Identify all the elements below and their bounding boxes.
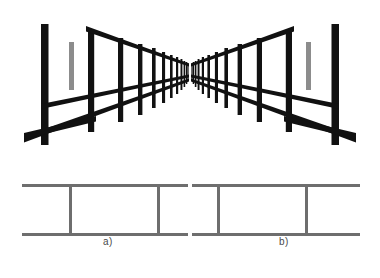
- perspective-corridor-scene: [0, 0, 380, 170]
- caption-a: a): [103, 236, 113, 247]
- test-bar-right: [306, 42, 311, 90]
- fence-post: [224, 48, 228, 108]
- fence-ground-plank: [284, 116, 356, 139]
- fence-mid-rail: [191, 75, 339, 110]
- fence-post: [207, 55, 210, 98]
- fence-top-rail: [191, 26, 294, 67]
- fence-post: [41, 24, 49, 145]
- fence-post: [170, 55, 173, 98]
- fence-post: [152, 48, 156, 108]
- left-fence-group: [24, 24, 189, 145]
- fence-top-rail: [86, 26, 189, 67]
- fence-post: [118, 38, 123, 122]
- ladder-rung: [305, 184, 308, 236]
- figure-container: a) b): [0, 0, 380, 278]
- ladder-top-rail: [22, 184, 188, 187]
- right-fence-group: [191, 24, 356, 145]
- fence-mid-rail: [41, 75, 189, 110]
- ladder-rung: [217, 184, 220, 236]
- ladder-comparison-row: [0, 170, 380, 278]
- fence-post: [138, 44, 142, 115]
- fence-ground-plank: [24, 116, 96, 139]
- ladder-rung: [157, 184, 160, 236]
- test-bar-left: [69, 42, 74, 90]
- fence-post: [332, 24, 340, 145]
- ladder-rung: [69, 184, 72, 236]
- fence-post: [215, 52, 218, 103]
- fence-post: [162, 52, 165, 103]
- ladder-b: [192, 184, 360, 236]
- ladder-a: [22, 184, 188, 236]
- fence-post: [257, 38, 262, 122]
- caption-b: b): [279, 236, 289, 247]
- fence-post: [238, 44, 242, 115]
